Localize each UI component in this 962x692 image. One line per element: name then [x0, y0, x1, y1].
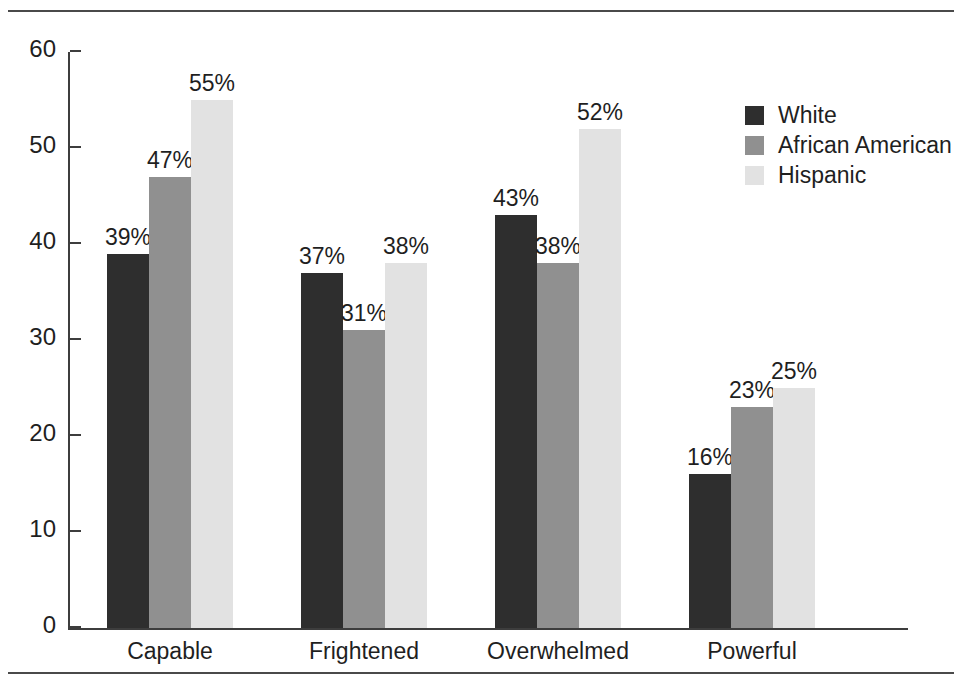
bar-value-label: 39% [105, 226, 151, 249]
bar: 39% [107, 254, 149, 628]
category-label: Powerful [707, 638, 796, 664]
legend-item: Hispanic [745, 160, 952, 190]
bar-value-label: 16% [687, 446, 733, 469]
bar: 38% [537, 263, 579, 628]
legend-swatch-icon [745, 136, 764, 155]
x-axis-line [68, 628, 908, 630]
bar-value-label: 43% [493, 187, 539, 210]
y-tick-mark [70, 50, 81, 52]
bar-value-label: 38% [383, 235, 429, 258]
category-label: Overwhelmed [487, 638, 629, 664]
y-tick-label: 30 [29, 325, 56, 349]
y-tick-mark [70, 146, 81, 148]
bar: 37% [301, 273, 343, 628]
chart-legend: WhiteAfrican AmericanHispanic [745, 100, 952, 190]
legend-label: Hispanic [778, 164, 866, 187]
legend-swatch-icon [745, 166, 764, 185]
y-tick: 60 [68, 50, 81, 52]
bar: 47% [149, 177, 191, 628]
y-tick-label: 60 [29, 37, 56, 61]
category-label: Frightened [309, 638, 419, 664]
bar: 25% [773, 388, 815, 628]
y-tick-mark [70, 626, 81, 628]
legend-label: White [778, 104, 837, 127]
chart-figure: 0102030405060 39%47%55%37%31%38%43%38%52… [0, 0, 962, 692]
bar-value-label: 23% [729, 379, 775, 402]
bar: 55% [191, 100, 233, 628]
y-tick: 40 [68, 242, 81, 244]
bar-value-label: 31% [341, 302, 387, 325]
y-tick-label: 20 [29, 421, 56, 445]
y-tick-label: 40 [29, 229, 56, 253]
y-tick: 0 [68, 626, 81, 628]
y-tick: 30 [68, 338, 81, 340]
bar-value-label: 47% [147, 149, 193, 172]
y-tick: 10 [68, 530, 81, 532]
bar: 31% [343, 330, 385, 628]
bar: 23% [731, 407, 773, 628]
y-tick-label: 50 [29, 133, 56, 157]
bar-value-label: 37% [299, 245, 345, 268]
y-tick-mark [70, 530, 81, 532]
bar-value-label: 52% [577, 101, 623, 124]
legend-swatch-icon [745, 106, 764, 125]
bar: 16% [689, 474, 731, 628]
y-tick: 20 [68, 434, 81, 436]
legend-item: African American [745, 130, 952, 160]
y-tick-label: 10 [29, 517, 56, 541]
bar-value-label: 38% [535, 235, 581, 258]
bar: 52% [579, 129, 621, 628]
bar-value-label: 55% [189, 72, 235, 95]
figure-top-rule [8, 10, 954, 12]
bar: 38% [385, 263, 427, 628]
y-tick: 50 [68, 146, 81, 148]
y-tick-mark [70, 434, 81, 436]
legend-label: African American [778, 134, 952, 157]
legend-item: White [745, 100, 952, 130]
y-axis-line [68, 52, 70, 630]
bar: 43% [495, 215, 537, 628]
bar-value-label: 25% [771, 360, 817, 383]
y-tick-mark [70, 242, 81, 244]
figure-bottom-rule [8, 672, 954, 674]
y-tick-mark [70, 338, 81, 340]
category-label: Capable [127, 638, 213, 664]
y-tick-label: 0 [43, 613, 56, 637]
